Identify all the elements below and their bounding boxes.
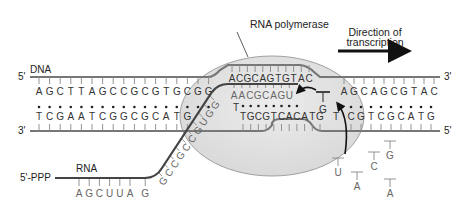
base-letter: C <box>347 111 354 122</box>
base-letter: C <box>120 86 127 97</box>
base-letter: C <box>96 188 103 199</box>
base-letter: A <box>36 86 43 97</box>
base-letter: C <box>141 86 148 97</box>
base-letter: T <box>411 86 417 97</box>
base-letter: G <box>350 86 358 97</box>
base-letter: A <box>127 188 134 199</box>
base-letter: A <box>354 181 361 192</box>
label-leader-line <box>237 32 248 57</box>
base-letter: G <box>194 86 202 97</box>
base-letter: G <box>99 86 107 97</box>
base-letter: C <box>262 90 269 101</box>
base-letter: G <box>56 111 64 122</box>
base-letter: G <box>427 111 435 122</box>
base-letter: G <box>386 150 394 161</box>
base-letter: C <box>99 111 106 122</box>
free-nucleotide: A <box>351 172 363 192</box>
base-letter: A <box>341 86 348 97</box>
base-letter: T <box>309 111 315 122</box>
base-letter: G <box>109 111 117 122</box>
base-letter: G <box>247 111 255 122</box>
base-letter: U <box>106 188 113 199</box>
base-letter: A <box>270 90 277 101</box>
base-letter: G <box>184 111 192 122</box>
base-letter: C <box>57 86 64 97</box>
base-letter: C <box>293 111 300 122</box>
base-letter: G <box>141 111 149 122</box>
base-letter: T <box>275 73 281 84</box>
incoming-base: G <box>319 104 327 115</box>
free-nucleotide: C <box>368 152 380 172</box>
base-letter: C <box>246 90 253 101</box>
base-letter: A <box>67 111 74 122</box>
base-letter: C <box>370 161 377 172</box>
direction-label-line2: transcription <box>346 36 403 48</box>
base-letter: C <box>131 111 138 122</box>
dna-5prime-top-left: 5' <box>18 71 26 82</box>
base-letter: G <box>262 111 270 122</box>
base-letter: T <box>240 111 246 122</box>
base-letter: U <box>116 188 123 199</box>
rna-5prime-ppp-label: 5'-PPP <box>20 172 51 183</box>
transcription-diagram: RNA polymerase Direction of transcriptio… <box>0 0 468 204</box>
base-letter: G <box>46 86 54 97</box>
base-letter: C <box>397 111 404 122</box>
base-letter: T <box>233 102 239 113</box>
base-letter: A <box>231 90 238 101</box>
dna-5prime-bottom-right: 5' <box>444 125 452 136</box>
base-letter: A <box>387 188 394 199</box>
base-letter: T <box>333 111 339 122</box>
base-letter: A <box>239 90 246 101</box>
base-letter: C <box>377 111 384 122</box>
base-letter: T <box>368 111 374 122</box>
dna-3prime-top-right: 3' <box>444 71 452 82</box>
base-letter: C <box>251 73 258 84</box>
base-letter: C <box>236 73 243 84</box>
rna-label: RNA <box>76 163 97 174</box>
base-letter: A <box>298 73 305 84</box>
base-letter: G <box>120 111 128 122</box>
base-letter: A <box>286 111 293 122</box>
base-letter: G <box>278 90 286 101</box>
base-letter: C <box>390 86 397 97</box>
base-letter: A <box>301 111 308 122</box>
base-letter: C <box>430 86 437 97</box>
base-letter: T <box>78 86 84 97</box>
free-nucleotide: G <box>384 141 396 161</box>
base-letter: T <box>68 86 74 97</box>
base-letter: G <box>387 111 395 122</box>
base-letter: A <box>163 111 170 122</box>
base-letter: C <box>255 111 262 122</box>
dna-label: DNA <box>30 64 51 75</box>
base-letter: T <box>163 86 169 97</box>
base-letter: G <box>380 86 388 97</box>
base-letter: A <box>78 111 85 122</box>
base-letter: T <box>418 111 424 122</box>
base-letter: U <box>334 167 341 178</box>
base-letter: T <box>271 111 277 122</box>
base-letter: G <box>141 188 149 199</box>
base-letter: G <box>85 188 93 199</box>
base-letter: G <box>152 86 160 97</box>
base-letter: G <box>131 86 139 97</box>
base-letter: A <box>229 73 236 84</box>
base-letter: T <box>36 111 42 122</box>
base-letter: A <box>408 111 415 122</box>
base-letter: C <box>110 86 117 97</box>
base-letter: C <box>305 73 312 84</box>
base-letter: G <box>254 90 262 101</box>
dna-3prime-bottom-left: 3' <box>18 125 26 136</box>
base-letter: A <box>76 188 83 199</box>
base-letter: T <box>89 111 95 122</box>
free-nucleotide: A <box>384 179 396 199</box>
base-letter: A <box>259 73 266 84</box>
base-letter: C <box>360 86 367 97</box>
base-letter: G <box>282 73 290 84</box>
rna-polymerase-label: RNA polymerase <box>250 18 329 30</box>
base-letter: A <box>421 86 428 97</box>
base-letter: T <box>174 111 180 122</box>
base-letter: G <box>244 73 252 84</box>
base-letter: C <box>46 111 53 122</box>
base-letter: G <box>357 111 365 122</box>
base-letter: C <box>278 111 285 122</box>
